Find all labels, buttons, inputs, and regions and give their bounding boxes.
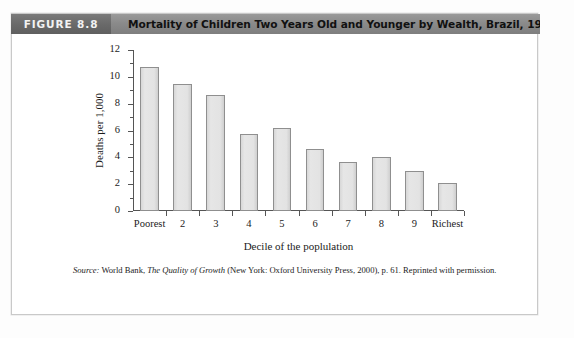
- y-tick-label: 6: [115, 124, 120, 135]
- x-axis-labels: Poorest23456789Richest: [133, 218, 464, 234]
- y-tick-label: 10: [110, 70, 121, 81]
- plot-area: 024681012 Poorest23456789Richest Decile …: [133, 50, 463, 210]
- bar: [306, 149, 325, 211]
- x-tick: [265, 211, 266, 216]
- y-tick-major: 0: [128, 211, 133, 212]
- x-tick-label: 3: [213, 218, 218, 229]
- x-tick: [199, 211, 200, 216]
- bar: [173, 84, 192, 211]
- x-tick-label: Poorest: [134, 218, 166, 229]
- x-tick-label: 8: [379, 218, 384, 229]
- y-tick-label: 0: [115, 204, 120, 215]
- x-tick-label: 2: [180, 218, 185, 229]
- x-tick: [398, 211, 399, 216]
- bar: [372, 157, 391, 211]
- bar-series: [133, 50, 464, 211]
- x-axis-title: Decile of the poplulation: [133, 240, 464, 252]
- figure-root: FIGURE 8.8 Mortality of Children Two Yea…: [0, 0, 574, 338]
- x-tick-label: Richest: [432, 218, 464, 229]
- source-work-title: The Quality of Growth: [147, 265, 225, 275]
- chart-container: Deaths per 1,000 024681012 Poorest234567…: [11, 38, 538, 253]
- x-tick: [232, 211, 233, 216]
- x-tick-label: 6: [312, 218, 317, 229]
- bar: [140, 67, 159, 211]
- x-tick: [299, 211, 300, 216]
- x-tick-label: 7: [346, 218, 351, 229]
- y-tick-label: 2: [115, 177, 120, 188]
- bar: [438, 183, 457, 211]
- bar: [273, 128, 292, 211]
- source-details: (New York: Oxford University Press, 2000…: [225, 265, 496, 275]
- bar: [339, 162, 358, 211]
- bar: [206, 95, 225, 211]
- x-tick-label: 9: [412, 218, 417, 229]
- y-tick-label: 4: [115, 150, 120, 161]
- x-tick-label: 5: [279, 218, 284, 229]
- y-tick-label: 12: [110, 43, 121, 54]
- figure-header: FIGURE 8.8 Mortality of Children Two Yea…: [11, 14, 540, 34]
- figure-number-badge: FIGURE 8.8: [11, 14, 111, 34]
- y-axis-title: Deaths per 1,000: [93, 50, 107, 211]
- x-tick: [365, 211, 366, 216]
- bar: [240, 134, 259, 211]
- x-tick: [431, 211, 432, 216]
- x-tick-label: 4: [246, 218, 251, 229]
- source-note: Source: World Bank, The Quality of Growt…: [73, 264, 518, 277]
- x-tick: [464, 211, 465, 216]
- source-label: Source:: [73, 265, 99, 275]
- y-tick-label: 8: [115, 97, 120, 108]
- bar: [405, 171, 424, 211]
- source-publisher: World Bank,: [99, 265, 147, 275]
- x-tick: [332, 211, 333, 216]
- figure-title: Mortality of Children Two Years Old and …: [111, 18, 540, 30]
- x-tick: [166, 211, 167, 216]
